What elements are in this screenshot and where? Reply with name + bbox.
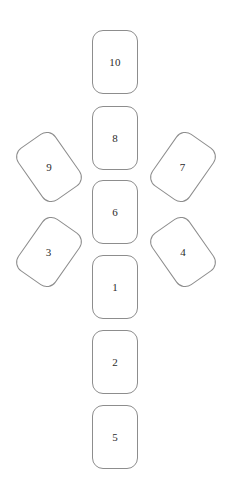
card-2[interactable]: 2 (92, 330, 138, 394)
card-label: 1 (112, 282, 118, 293)
card-9[interactable]: 9 (12, 128, 86, 207)
card-label: 3 (46, 246, 52, 257)
card-5[interactable]: 5 (92, 405, 138, 469)
card-label: 8 (112, 133, 118, 144)
card-label: 2 (112, 357, 118, 368)
card-7[interactable]: 7 (146, 128, 220, 207)
card-label: 10 (109, 57, 120, 68)
diagram-canvas: 10897634125 (0, 0, 234, 495)
card-8[interactable]: 8 (92, 106, 138, 170)
card-label: 4 (180, 247, 186, 258)
card-4[interactable]: 4 (146, 213, 220, 292)
card-1[interactable]: 1 (92, 255, 138, 319)
card-10[interactable]: 10 (92, 30, 138, 94)
card-3[interactable]: 3 (12, 213, 86, 292)
card-label: 9 (46, 162, 52, 173)
card-label: 6 (112, 207, 118, 218)
card-label: 7 (180, 161, 186, 172)
card-label: 5 (112, 432, 118, 443)
card-6[interactable]: 6 (92, 180, 138, 244)
